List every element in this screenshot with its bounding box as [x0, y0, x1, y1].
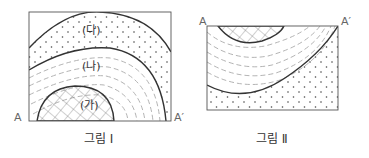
figure-2-caption: 그림 Ⅱ [256, 132, 288, 146]
figure-1-caption: 그림 Ⅰ [84, 132, 113, 146]
label-a-prime-2: A′ [341, 15, 352, 28]
label-a-prime: A′ [174, 111, 185, 124]
label-a-2: A [199, 15, 207, 28]
figure-2 [207, 26, 338, 110]
unit-label-ga: (가) [80, 99, 99, 112]
diagram-canvas: (다) (나) (가) A A′ 그림 Ⅰ A A′ 그림 Ⅱ [0, 0, 369, 158]
unit-label-da: (다) [82, 24, 101, 37]
label-a: A [14, 111, 22, 124]
unit-label-na: (나) [82, 60, 101, 73]
